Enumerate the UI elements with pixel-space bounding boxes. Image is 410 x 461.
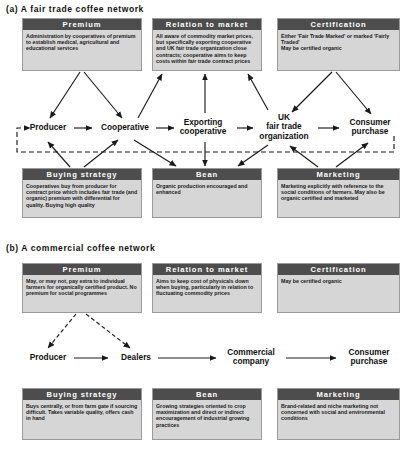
panel-a-card-certification: Certification Either 'Fair Trade Marked'… — [277, 18, 400, 71]
panel-a-caption: (a) A fair trade coffee network — [6, 4, 144, 14]
arrow-buying-strategy-to-producer — [48, 142, 70, 167]
panel-b-node-consumer-purchase: Consumer purchase — [338, 348, 400, 367]
panel-a-card-premium: Premium Administration by cooperatives o… — [22, 18, 142, 71]
panel-a-node-producer: Producer — [21, 123, 75, 132]
card-body: Cooperatives buy from producer for contr… — [23, 180, 141, 210]
panel-a-card-relation-to-market: Relation to market All aware of commodit… — [152, 18, 262, 71]
card-body: Brand-related and niche marketing not co… — [278, 400, 399, 424]
panel-b-card-marketing: Marketing Brand-related and niche market… — [277, 388, 400, 440]
panel-b-card-premium: Premium May, or may not, pay extra to in… — [22, 263, 142, 313]
arrow-certification-to-consumer — [336, 72, 371, 114]
card-body: Growing strategies oriented to crop maxi… — [153, 400, 261, 430]
panel-b-premium-connectors — [48, 314, 130, 348]
panel-b-caption: (b) A commercial coffee network — [6, 243, 155, 253]
card-body: Organic production encouraged and enhanc… — [153, 180, 261, 197]
arrow-premium-to-producer — [50, 72, 80, 118]
card-title: Certification — [278, 264, 399, 275]
panel-b-node-dealers: Dealers — [112, 353, 160, 362]
arrow-cooperative-to-bean — [134, 140, 176, 166]
panel-a-node-exporting-cooperative: Exporting cooperative — [172, 118, 234, 137]
card-body: Aims to keep cost of physicals down when… — [153, 275, 261, 299]
card-title: Relation to market — [153, 264, 261, 275]
panel-a-card-bean: Bean Organic production encouraged and e… — [152, 168, 262, 218]
arrow-marketing-to-consumer — [336, 143, 368, 167]
card-title: Bean — [153, 389, 261, 400]
panel-a-card-buying-strategy: Buying strategy Cooperatives buy from pr… — [22, 168, 142, 218]
arrow-premium-to-producer-dashed — [48, 314, 76, 348]
panel-b-card-buying-strategy: Buying strategy Buys centrally, or from … — [22, 388, 142, 440]
panel-a-node-cooperative: Cooperative — [94, 123, 156, 132]
arrow-marketing-to-uk-org — [290, 146, 318, 167]
card-title: Premium — [23, 264, 141, 275]
card-body: Administration by cooperatives of premiu… — [23, 30, 141, 54]
card-body: May, or may not, pay extra to individual… — [23, 275, 141, 299]
panel-b-card-bean: Bean Growing strategies oriented to crop… — [152, 388, 262, 440]
card-title: Buying strategy — [23, 389, 141, 400]
card-title: Bean — [153, 169, 261, 180]
arrow-certification-to-uk-org — [292, 72, 332, 112]
card-title: Premium — [23, 19, 141, 30]
arrow-uk-org-to-bean — [238, 145, 268, 166]
card-body: May be certified organic — [278, 275, 399, 286]
card-title: Buying strategy — [23, 169, 141, 180]
card-body: Marketing explicitly with reference to t… — [278, 180, 399, 204]
arrow-cooperative-to-relation — [138, 74, 162, 118]
arrow-buying-strategy-to-cooperative — [84, 140, 118, 167]
panel-b-card-relation-to-market: Relation to market Aims to keep cost of … — [152, 263, 262, 313]
panel-a-node-consumer-purchase: Consumer purchase — [340, 118, 400, 137]
panel-b-card-certification: Certification May be certified organic — [277, 263, 400, 313]
card-title: Relation to market — [153, 19, 261, 30]
card-body: All aware of commodity market prices, bu… — [153, 30, 261, 67]
card-title: Marketing — [278, 169, 399, 180]
panel-a-card-marketing: Marketing Marketing explicitly with refe… — [277, 168, 400, 218]
panel-b-node-commercial-company: Commercial company — [218, 348, 284, 367]
panel-a-node-uk-fair-trade-organization: UK fair trade organization — [253, 113, 315, 141]
panel-b-node-producer: Producer — [21, 353, 75, 362]
card-title: Marketing — [278, 389, 399, 400]
arrow-premium-to-cooperative — [84, 72, 122, 118]
card-title: Certification — [278, 19, 399, 30]
card-body: Either 'Fair Trade Marked' or marked 'Fa… — [278, 30, 399, 54]
card-body: Buys centrally, or from farm gate if sou… — [23, 400, 141, 424]
arrow-uk-org-to-relation — [248, 74, 268, 110]
arrow-premium-to-dealers-dashed — [86, 314, 130, 348]
